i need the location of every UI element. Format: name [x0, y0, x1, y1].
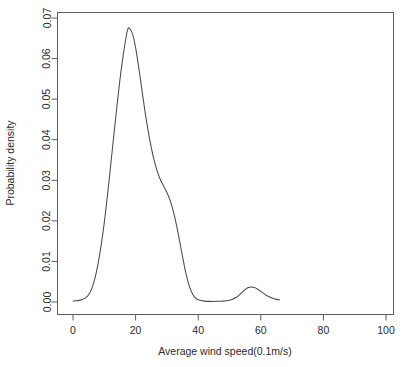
y-tick-label: 0.04 — [41, 129, 53, 150]
y-tick-label: 0.03 — [41, 170, 53, 191]
plot-area-frame — [58, 13, 394, 315]
y-tick-label: 0.07 — [41, 8, 53, 29]
y-tick-label: 0.02 — [41, 210, 53, 231]
x-axis-title: Average wind speed(0.1m/s) — [158, 345, 291, 357]
y-axis-ticks: 0.000.010.020.030.040.050.060.07 — [41, 8, 58, 313]
x-tick-label: 60 — [255, 324, 267, 336]
x-axis-ticks: 020406080100 — [70, 315, 395, 336]
chart-canvas: 0.000.010.020.030.040.050.060.07 0204060… — [0, 0, 410, 367]
density-curve — [73, 28, 280, 302]
x-tick-label: 100 — [377, 324, 395, 336]
x-tick-label: 0 — [70, 324, 76, 336]
y-tick-label: 0.05 — [41, 89, 53, 110]
x-tick-label: 80 — [318, 324, 330, 336]
y-axis-title: Probability density — [4, 120, 16, 206]
y-tick-label: 0.06 — [41, 48, 53, 69]
x-tick-label: 40 — [192, 324, 204, 336]
x-tick-label: 20 — [130, 324, 142, 336]
density-plot: 0.000.010.020.030.040.050.060.07 0204060… — [0, 0, 410, 367]
y-tick-label: 0.01 — [41, 251, 53, 272]
y-tick-label: 0.00 — [41, 292, 53, 313]
